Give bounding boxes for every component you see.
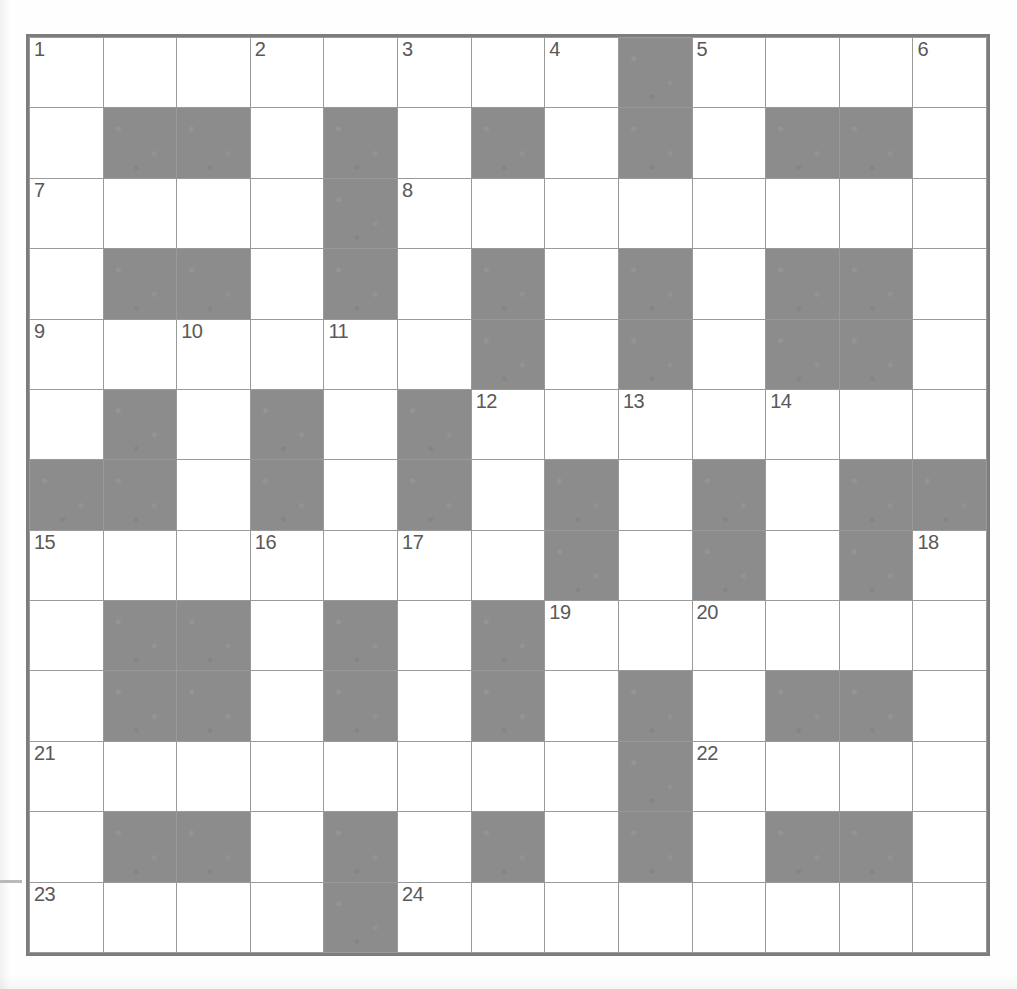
- crossword-letter-cell[interactable]: [913, 320, 986, 389]
- crossword-letter-cell[interactable]: [693, 249, 766, 318]
- crossword-grid[interactable]: 123456789101112131415161718192021222324: [26, 34, 990, 956]
- crossword-letter-cell[interactable]: 4: [545, 38, 618, 107]
- crossword-letter-cell[interactable]: 18: [913, 531, 986, 600]
- crossword-letter-cell[interactable]: [913, 671, 986, 740]
- crossword-letter-cell[interactable]: [545, 108, 618, 177]
- crossword-letter-cell[interactable]: [30, 671, 103, 740]
- crossword-letter-cell[interactable]: [177, 883, 250, 952]
- crossword-letter-cell[interactable]: 17: [398, 531, 471, 600]
- crossword-letter-cell[interactable]: [840, 390, 913, 459]
- crossword-letter-cell[interactable]: 20: [693, 601, 766, 670]
- crossword-letter-cell[interactable]: [177, 38, 250, 107]
- crossword-letter-cell[interactable]: [766, 179, 839, 248]
- crossword-letter-cell[interactable]: [177, 460, 250, 529]
- crossword-letter-cell[interactable]: 23: [30, 883, 103, 952]
- crossword-letter-cell[interactable]: [104, 320, 177, 389]
- crossword-letter-cell[interactable]: 19: [545, 601, 618, 670]
- crossword-letter-cell[interactable]: [766, 601, 839, 670]
- crossword-letter-cell[interactable]: [251, 742, 324, 811]
- crossword-letter-cell[interactable]: [324, 460, 397, 529]
- crossword-letter-cell[interactable]: [177, 742, 250, 811]
- crossword-letter-cell[interactable]: [766, 883, 839, 952]
- crossword-letter-cell[interactable]: [251, 249, 324, 318]
- crossword-letter-cell[interactable]: 10: [177, 320, 250, 389]
- crossword-letter-cell[interactable]: [30, 812, 103, 881]
- crossword-letter-cell[interactable]: [472, 179, 545, 248]
- crossword-letter-cell[interactable]: [545, 883, 618, 952]
- crossword-letter-cell[interactable]: 15: [30, 531, 103, 600]
- crossword-letter-cell[interactable]: [398, 601, 471, 670]
- crossword-letter-cell[interactable]: [913, 390, 986, 459]
- crossword-letter-cell[interactable]: 21: [30, 742, 103, 811]
- crossword-letter-cell[interactable]: 24: [398, 883, 471, 952]
- crossword-letter-cell[interactable]: [324, 390, 397, 459]
- crossword-letter-cell[interactable]: [104, 531, 177, 600]
- crossword-letter-cell[interactable]: [30, 601, 103, 670]
- crossword-letter-cell[interactable]: 5: [693, 38, 766, 107]
- crossword-letter-cell[interactable]: 16: [251, 531, 324, 600]
- crossword-letter-cell[interactable]: [913, 249, 986, 318]
- crossword-letter-cell[interactable]: [398, 320, 471, 389]
- crossword-letter-cell[interactable]: [30, 390, 103, 459]
- crossword-letter-cell[interactable]: [472, 531, 545, 600]
- crossword-letter-cell[interactable]: 2: [251, 38, 324, 107]
- crossword-letter-cell[interactable]: [766, 742, 839, 811]
- crossword-letter-cell[interactable]: 7: [30, 179, 103, 248]
- crossword-letter-cell[interactable]: [619, 531, 692, 600]
- crossword-letter-cell[interactable]: [913, 812, 986, 881]
- crossword-letter-cell[interactable]: [104, 179, 177, 248]
- crossword-letter-cell[interactable]: [693, 390, 766, 459]
- crossword-letter-cell[interactable]: [472, 883, 545, 952]
- crossword-letter-cell[interactable]: [251, 883, 324, 952]
- crossword-letter-cell[interactable]: [545, 812, 618, 881]
- crossword-letter-cell[interactable]: [693, 883, 766, 952]
- crossword-letter-cell[interactable]: [398, 249, 471, 318]
- crossword-letter-cell[interactable]: [619, 883, 692, 952]
- crossword-letter-cell[interactable]: [30, 249, 103, 318]
- crossword-letter-cell[interactable]: [251, 671, 324, 740]
- crossword-letter-cell[interactable]: [398, 671, 471, 740]
- crossword-letter-cell[interactable]: 9: [30, 320, 103, 389]
- crossword-letter-cell[interactable]: [324, 742, 397, 811]
- crossword-letter-cell[interactable]: 8: [398, 179, 471, 248]
- crossword-letter-cell[interactable]: [251, 179, 324, 248]
- crossword-letter-cell[interactable]: [545, 179, 618, 248]
- crossword-letter-cell[interactable]: [840, 883, 913, 952]
- crossword-letter-cell[interactable]: [913, 883, 986, 952]
- crossword-letter-cell[interactable]: [472, 460, 545, 529]
- crossword-letter-cell[interactable]: [251, 812, 324, 881]
- crossword-letter-cell[interactable]: [398, 742, 471, 811]
- crossword-letter-cell[interactable]: [545, 390, 618, 459]
- crossword-letter-cell[interactable]: [324, 38, 397, 107]
- crossword-letter-cell[interactable]: [693, 179, 766, 248]
- crossword-letter-cell[interactable]: [766, 38, 839, 107]
- crossword-letter-cell[interactable]: [840, 601, 913, 670]
- crossword-letter-cell[interactable]: 14: [766, 390, 839, 459]
- crossword-letter-cell[interactable]: [766, 531, 839, 600]
- crossword-letter-cell[interactable]: [472, 38, 545, 107]
- crossword-letter-cell[interactable]: 12: [472, 390, 545, 459]
- crossword-letter-cell[interactable]: [177, 390, 250, 459]
- crossword-letter-cell[interactable]: 11: [324, 320, 397, 389]
- crossword-letter-cell[interactable]: [251, 601, 324, 670]
- crossword-letter-cell[interactable]: [251, 108, 324, 177]
- crossword-letter-cell[interactable]: [545, 320, 618, 389]
- crossword-letter-cell[interactable]: [693, 812, 766, 881]
- crossword-letter-cell[interactable]: 6: [913, 38, 986, 107]
- crossword-letter-cell[interactable]: [693, 320, 766, 389]
- crossword-letter-cell[interactable]: [104, 742, 177, 811]
- crossword-letter-cell[interactable]: [104, 883, 177, 952]
- crossword-letter-cell[interactable]: [840, 742, 913, 811]
- crossword-letter-cell[interactable]: [913, 179, 986, 248]
- crossword-letter-cell[interactable]: [545, 671, 618, 740]
- crossword-letter-cell[interactable]: [177, 179, 250, 248]
- crossword-letter-cell[interactable]: [913, 108, 986, 177]
- crossword-letter-cell[interactable]: [766, 460, 839, 529]
- crossword-letter-cell[interactable]: [545, 249, 618, 318]
- crossword-letter-cell[interactable]: [398, 812, 471, 881]
- crossword-letter-cell[interactable]: [913, 742, 986, 811]
- crossword-letter-cell[interactable]: [840, 38, 913, 107]
- crossword-letter-cell[interactable]: [398, 108, 471, 177]
- crossword-letter-cell[interactable]: [693, 108, 766, 177]
- crossword-letter-cell[interactable]: [30, 108, 103, 177]
